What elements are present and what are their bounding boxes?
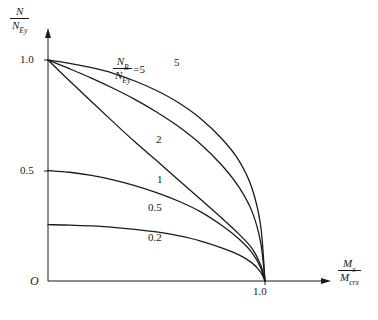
x-tick-label-1-0: 1.0	[253, 285, 267, 297]
x-axis-title-numerator: Mx	[338, 258, 361, 270]
parameter-ratio-annotation: NB NEy =5	[113, 56, 132, 81]
curve-5	[48, 60, 265, 281]
y-axis-title-denominator: NEy	[10, 20, 29, 32]
annotation-numerator: NB	[113, 56, 132, 68]
annotation-equals-value: =5	[132, 64, 145, 76]
x-axis-title: Mx Mcrx	[338, 258, 361, 283]
curve-label-0-2: 0.2	[148, 231, 162, 243]
curve-2	[48, 60, 265, 281]
curve-1	[48, 60, 265, 281]
y-tick-label-0-5: 0.5	[20, 164, 34, 176]
y-axis-title-numerator: N	[10, 6, 29, 18]
interaction-diagram-figure: N NEy Mx Mcrx NB NEy =5 1.0 0.5 1.0 O 5 …	[0, 0, 378, 320]
curve-label-2: 2	[156, 133, 162, 145]
origin-label: O	[30, 274, 39, 289]
x-axis-title-denominator: Mcrx	[338, 272, 361, 284]
plot-canvas	[0, 0, 378, 320]
y-axis-arrowhead	[45, 28, 51, 38]
x-axis-arrowhead	[321, 278, 331, 284]
y-axis-title: N NEy	[10, 6, 29, 31]
curve-label-0-5: 0.5	[148, 201, 162, 213]
y-tick-label-1-0: 1.0	[20, 53, 34, 65]
annotation-denominator: NEy	[113, 70, 132, 82]
curve-group	[48, 60, 265, 281]
curve-label-5: 5	[174, 56, 180, 68]
curve-label-1: 1	[157, 173, 163, 185]
